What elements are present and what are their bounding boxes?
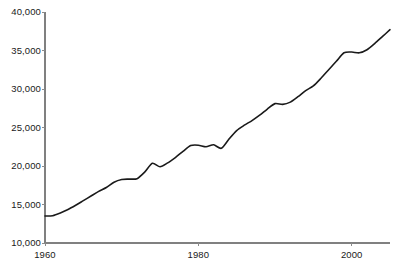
x-tick-label-2000: 2000 — [322, 250, 382, 260]
x-tick-label-1980: 1980 — [168, 250, 228, 260]
line-chart: 10,00015,00020,00025,00030,00035,00040,0… — [0, 0, 400, 275]
x-tick-label-1960: 1960 — [15, 250, 75, 260]
x-axis-tick-labels: 196019802000 — [0, 0, 400, 275]
